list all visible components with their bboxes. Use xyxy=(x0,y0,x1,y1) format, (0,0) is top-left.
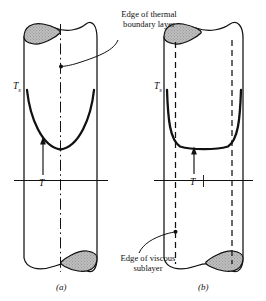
panel-a-ts-subscript: s xyxy=(18,86,21,93)
panel-a xyxy=(14,22,108,272)
thermal-label-line-1: Edge of thermal xyxy=(121,9,176,19)
viscous-label-line-2: sublayer xyxy=(133,263,162,273)
panel-b-temperature-profile xyxy=(167,90,241,149)
viscous-label-line-1: Edge of viscous xyxy=(121,253,176,263)
panel-a-caption: (a) xyxy=(56,282,67,292)
panel-b xyxy=(154,22,253,271)
panel-b-surface-temperature-label: Ts xyxy=(154,80,162,93)
panel-a-temperature-label: T xyxy=(39,177,44,188)
panel-a-cut-section-bottom xyxy=(61,251,97,272)
panel-a-surface-temperature-label: Ts xyxy=(13,80,21,93)
thermal-layer-leader-dot xyxy=(59,65,63,69)
thermal-layer-leader-line xyxy=(62,40,119,67)
thermal-label-line-2: boundary layer xyxy=(123,19,175,29)
panel-b-temperature-label: T xyxy=(190,176,195,187)
viscous-sublayer-label: Edge of viscous sublayer xyxy=(100,253,196,274)
viscous-layer-leader-dot xyxy=(174,230,178,234)
thermal-boundary-layer-label: Edge of thermal boundary layer xyxy=(104,9,194,30)
panel-b-caption: (b) xyxy=(198,282,209,292)
panel-b-cut-section-bottom xyxy=(206,251,243,272)
viscous-layer-leader-line xyxy=(139,232,175,253)
panel-a-cut-section-top xyxy=(24,24,60,45)
panel-b-ts-subscript: s xyxy=(159,86,162,93)
